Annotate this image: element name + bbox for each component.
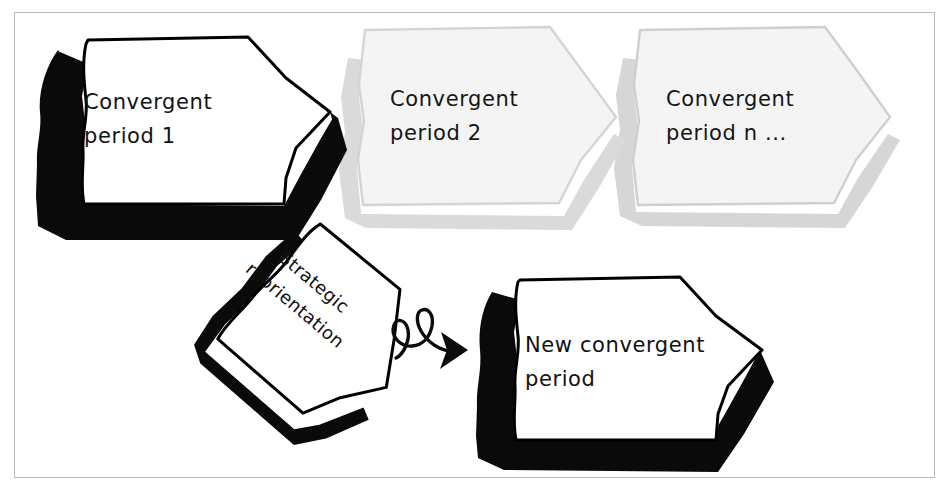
node-body — [82, 37, 330, 204]
node-convergent-period-1[interactable]: Convergent period 1 — [36, 37, 347, 240]
node-label-line2: period 1 — [84, 124, 176, 148]
node-label-line1: Convergent — [84, 90, 212, 114]
node-label-line1: Convergent — [666, 87, 794, 111]
node-new-convergent-period[interactable]: New convergent period — [476, 277, 774, 472]
node-body — [633, 27, 890, 205]
squiggle-path — [393, 310, 450, 358]
squiggly-arrow-icon — [393, 310, 468, 369]
node-label-line1: New convergent — [525, 333, 705, 357]
diagram-artwork: Convergent period n ... Convergent perio… — [0, 0, 951, 498]
node-convergent-period-2[interactable]: Convergent period 2 — [339, 27, 626, 230]
node-label-line2: period 2 — [390, 121, 482, 145]
diagram-canvas: Convergent period n ... Convergent perio… — [0, 0, 951, 498]
node-convergent-period-n[interactable]: Convergent period n ... — [614, 27, 900, 228]
node-label-line1: Convergent — [390, 87, 518, 111]
node-body — [358, 27, 616, 205]
node-label-line2: period n ... — [666, 121, 787, 145]
node-label-line2: period — [525, 367, 596, 391]
